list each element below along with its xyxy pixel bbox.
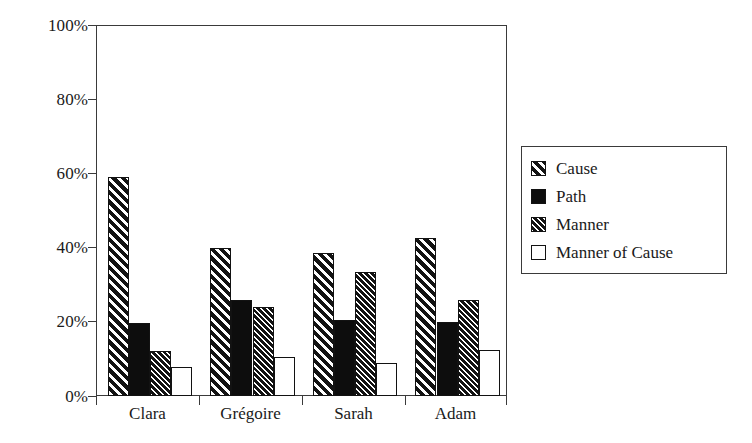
legend-label: Manner (556, 216, 609, 233)
legend-item-manner-of-cause: Manner of Cause (531, 238, 719, 266)
bar-clara-cause (108, 177, 129, 396)
bar-clara-path (129, 323, 150, 396)
bar-sarah-path (334, 320, 355, 396)
legend-item-path: Path (531, 182, 719, 210)
bar-gr-goire-manner (253, 307, 274, 396)
bar-gr-goire-path (231, 300, 252, 396)
legend-label: Manner of Cause (556, 244, 673, 261)
x-tick-label-sarah: Sarah (302, 404, 405, 424)
bar-gr-goire-manner-of-cause (274, 357, 295, 396)
legend-swatch-cause-icon (531, 161, 546, 176)
bar-clara-manner-of-cause (171, 367, 192, 396)
bar-sarah-manner-of-cause (376, 363, 397, 396)
legend-swatch-path-icon (531, 189, 546, 204)
bar-gr-goire-cause (210, 248, 231, 396)
bar-adam-manner (458, 300, 479, 396)
x-tick-label-adam: Adam (405, 404, 506, 424)
bar-chart: 100% 80% 60% 40% 20% 0% Clara Grégoire S… (0, 0, 752, 443)
legend-item-manner: Manner (531, 210, 719, 238)
bar-clara-manner (150, 351, 171, 396)
x-tick-label-clara: Clara (96, 404, 199, 424)
legend: Cause Path Manner Manner of Cause (521, 146, 727, 274)
legend-label: Path (556, 188, 586, 205)
legend-item-cause: Cause (531, 154, 719, 182)
bar-adam-cause (415, 238, 436, 396)
legend-label: Cause (556, 160, 598, 177)
bar-sarah-cause (313, 253, 334, 396)
bar-adam-manner-of-cause (479, 350, 500, 396)
legend-swatch-manner-of-cause-icon (531, 245, 546, 260)
x-tick-label-gregoire: Grégoire (199, 404, 302, 424)
legend-swatch-manner-icon (531, 217, 546, 232)
bar-sarah-manner (355, 272, 376, 396)
bar-adam-path (437, 322, 458, 396)
